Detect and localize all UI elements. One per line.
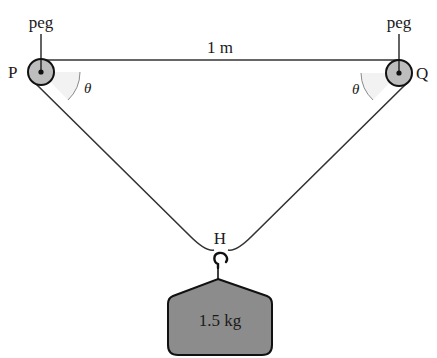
hook-point-label: H [214, 229, 226, 248]
point-p-label: P [8, 63, 17, 82]
peg-string-mass-diagram: peg peg P Q 1 m θ θ H 1.5 kg [0, 0, 437, 358]
hook-icon [214, 253, 227, 268]
string-p-to-h [34, 82, 214, 250]
angle-left-label: θ [84, 80, 92, 96]
mass-label: 1.5 kg [199, 311, 242, 330]
point-q-label: Q [416, 64, 428, 83]
distance-label: 1 m [207, 38, 233, 57]
string-q-to-h [228, 82, 408, 250]
peg-right-icon [386, 60, 412, 86]
peg-left-label: peg [29, 13, 54, 32]
peg-left-icon [28, 59, 54, 85]
angle-right-label: θ [352, 81, 360, 97]
peg-right-label: peg [387, 13, 412, 32]
